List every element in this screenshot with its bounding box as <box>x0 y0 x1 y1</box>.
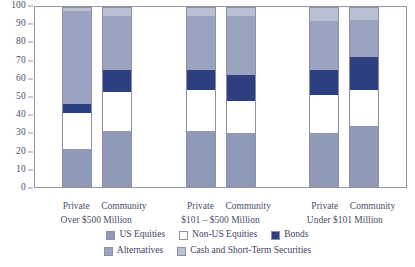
y-tick-label: 70 <box>16 56 26 66</box>
legend-label: US Equities <box>119 230 165 240</box>
y-tick-mark <box>28 188 33 189</box>
stacked-bar[interactable] <box>226 7 256 187</box>
bar-segment <box>309 7 339 21</box>
plot-frame <box>34 6 407 188</box>
bar-segment <box>186 16 216 70</box>
legend-item[interactable]: Cash and Short-Term Securities <box>177 246 311 256</box>
y-tick-label: 90 <box>16 19 26 29</box>
legend-row-secondary: AlternativesCash and Short-Term Securiti… <box>0 243 415 259</box>
x-tick-label: Community <box>225 200 255 213</box>
x-group-range-label: Over $500 Million <box>34 213 158 227</box>
bar-segment <box>226 133 256 187</box>
bar-segment <box>102 7 132 16</box>
legend-label: Non-US Equities <box>192 230 257 240</box>
bar-segment <box>309 21 339 70</box>
y-axis: 1009080706050403020100 <box>0 6 26 188</box>
x-tick-label: Private <box>61 200 91 213</box>
x-tick-label: Community <box>101 200 131 213</box>
legend-label: Bonds <box>284 230 308 240</box>
bar-segment <box>62 149 92 187</box>
legend-swatch-icon <box>271 231 280 240</box>
stacked-bar[interactable] <box>309 7 339 187</box>
bars-layer <box>35 7 406 187</box>
bar-segment <box>226 7 256 16</box>
y-tick-label: 40 <box>16 110 26 120</box>
bar-segment <box>309 70 339 95</box>
bar-segment <box>226 75 256 100</box>
bar-segment <box>349 57 379 89</box>
stacked-bar-chart: 1009080706050403020100 PrivateCommunityO… <box>0 0 415 267</box>
x-tick-label: Private <box>310 200 340 213</box>
bar-segment <box>349 7 379 20</box>
bar-segment <box>186 90 216 131</box>
bar-segment <box>309 95 339 133</box>
bar-segment <box>349 90 379 126</box>
bar-segment <box>62 113 92 149</box>
legend-label: Alternatives <box>117 246 163 256</box>
legend-swatch-icon <box>104 247 113 256</box>
bar-segment <box>102 70 132 92</box>
x-group-range-label: Under $101 Million <box>283 213 407 227</box>
legend-item[interactable]: US Equities <box>106 230 165 240</box>
y-tick-label: 80 <box>16 38 26 48</box>
bar-segment <box>309 133 339 187</box>
y-tick-mark <box>28 78 33 79</box>
legend-label: Cash and Short-Term Securities <box>190 246 311 256</box>
y-tick-label: 20 <box>16 147 26 157</box>
bar-segment <box>186 70 216 90</box>
bar-segment <box>226 101 256 133</box>
stacked-bar[interactable] <box>186 7 216 187</box>
bar-segment <box>186 131 216 187</box>
y-tick-mark <box>28 42 33 43</box>
y-tick-mark <box>28 115 33 116</box>
y-tick-label: 0 <box>21 183 26 193</box>
legend: US EquitiesNon-US EquitiesBonds Alternat… <box>0 227 415 261</box>
bar-segment <box>102 92 132 132</box>
legend-row-primary: US EquitiesNon-US EquitiesBonds <box>0 227 415 243</box>
x-tick-label: Community <box>350 200 380 213</box>
y-tick-mark <box>28 24 33 25</box>
y-tick-label: 60 <box>16 74 26 84</box>
bar-segment <box>62 11 92 105</box>
legend-swatch-icon <box>179 231 188 240</box>
stacked-bar[interactable] <box>62 7 92 187</box>
legend-item[interactable]: Alternatives <box>104 246 163 256</box>
bar-segment <box>62 104 92 113</box>
stacked-bar[interactable] <box>349 7 379 187</box>
bar-group <box>159 7 283 187</box>
legend-item[interactable]: Bonds <box>271 230 308 240</box>
y-tick-mark <box>28 133 33 134</box>
y-tick-mark <box>28 97 33 98</box>
x-group-range-label: $101 – $500 Million <box>158 213 282 227</box>
legend-swatch-icon <box>177 247 186 256</box>
x-tick-label: Private <box>185 200 215 213</box>
bar-segment <box>349 126 379 187</box>
bar-segment <box>349 20 379 58</box>
y-tick-mark <box>28 60 33 61</box>
y-tick-mark <box>28 169 33 170</box>
bar-segment <box>186 7 216 16</box>
legend-item[interactable]: Non-US Equities <box>179 230 257 240</box>
stacked-bar[interactable] <box>102 7 132 187</box>
bar-segment <box>226 16 256 75</box>
y-tick-label: 30 <box>16 129 26 139</box>
bar-segment <box>102 16 132 70</box>
y-tick-mark <box>28 151 33 152</box>
legend-swatch-icon <box>106 231 115 240</box>
y-tick-label: 10 <box>16 165 26 175</box>
y-tick-label: 50 <box>16 92 26 102</box>
bar-group <box>282 7 406 187</box>
y-tick-mark <box>28 6 33 7</box>
bar-group <box>35 7 159 187</box>
bar-segment <box>102 131 132 187</box>
plot-area: 1009080706050403020100 PrivateCommunityO… <box>0 6 415 194</box>
y-tick-label: 100 <box>11 1 26 11</box>
